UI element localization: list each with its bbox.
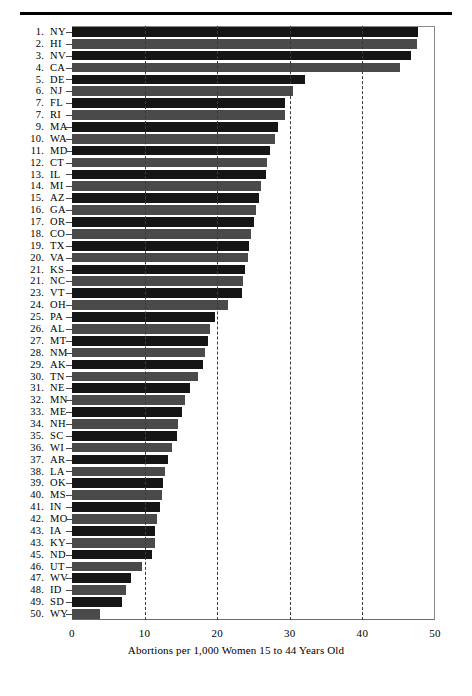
gridline-40 (362, 26, 363, 620)
gridlines (0, 26, 472, 620)
x-axis-label: Abortions per 1,000 Women 15 to 44 Years… (0, 644, 472, 656)
top-rule-divider (20, 12, 452, 15)
gridline-20 (217, 26, 218, 620)
x-tick-label-20: 20 (202, 626, 232, 640)
x-axis-label-text: Abortions per 1,000 Women 15 to 44 Years… (128, 644, 344, 656)
gridline-10 (145, 26, 146, 620)
x-axis-tick-labels: 01020304050 (0, 626, 472, 642)
x-tick-label-10: 10 (130, 626, 160, 640)
chart-page: 1.NY2.HI3.NV4.CA5.DE6.NJ7.FL7.RI9.MA10.W… (0, 0, 472, 696)
gridline-30 (290, 26, 291, 620)
bar-chart: 1.NY2.HI3.NV4.CA5.DE6.NJ7.FL7.RI9.MA10.W… (0, 26, 472, 626)
x-tick-label-40: 40 (347, 626, 377, 640)
x-tick-label-0: 0 (57, 626, 87, 640)
x-tick-label-30: 30 (275, 626, 305, 640)
x-tick-label-50: 50 (420, 626, 450, 640)
